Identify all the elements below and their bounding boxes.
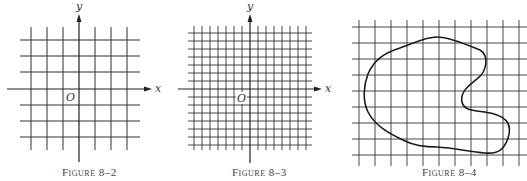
caption-figure-8-2: Figure 8–2 xyxy=(62,166,117,178)
caption-figure-8-3: Figure 8–3 xyxy=(232,166,287,178)
caption-figure-8-4: Figure 8–4 xyxy=(422,166,477,178)
grid-region xyxy=(352,20,527,166)
region-boundary xyxy=(364,37,509,153)
figure-8-4 xyxy=(0,0,527,181)
